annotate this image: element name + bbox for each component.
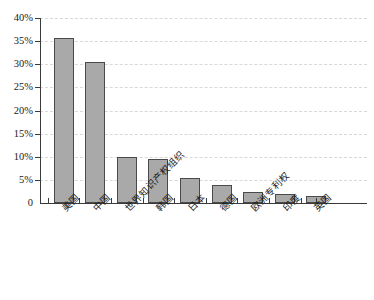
- y-tick-label: 40%: [14, 13, 33, 24]
- y-tick-label: 25%: [14, 82, 33, 93]
- bar-slot: [237, 18, 269, 203]
- x-axis-labels: 美国中国世界知识产权组织韩国日本德国欧洲专利权印度英国: [40, 206, 367, 298]
- bar: [54, 38, 74, 203]
- y-tick-label: 10%: [14, 152, 33, 163]
- bar-slot: [48, 18, 80, 203]
- bar-slot: [174, 18, 206, 203]
- y-tick-label: 0: [28, 198, 33, 209]
- bar-slot: [206, 18, 238, 203]
- y-tick-label: 5%: [19, 175, 33, 186]
- y-tick-label: 20%: [14, 105, 33, 116]
- y-tick-label: 15%: [14, 128, 33, 139]
- x-tick-mark: [48, 198, 49, 203]
- bar-slot: [301, 18, 333, 203]
- bar-chart: 05%10%15%20%25%30%35%40% 美国中国世界知识产权组织韩国日…: [0, 0, 374, 300]
- bar-series: [40, 18, 367, 203]
- y-tick-label: 30%: [14, 59, 33, 70]
- y-tick-label: 35%: [14, 36, 33, 47]
- bar: [85, 62, 105, 203]
- bar-slot: [79, 18, 111, 203]
- bar-slot: [111, 18, 143, 203]
